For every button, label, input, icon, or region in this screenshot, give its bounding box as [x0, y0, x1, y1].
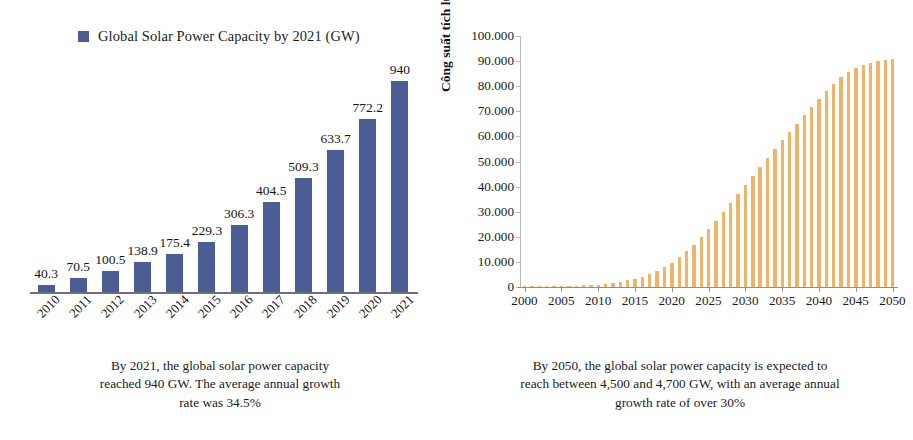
bar-value-label: 940	[390, 62, 410, 78]
right-bar-group	[801, 36, 808, 287]
left-bar-group: 306.3	[223, 58, 255, 294]
bar	[854, 68, 857, 287]
bar	[862, 65, 865, 287]
left-chart-bars: 40.370.5100.5138.9175.4229.3306.3404.550…	[30, 58, 416, 294]
left-bar-group: 40.3	[30, 58, 62, 294]
left-chart-caption: By 2021, the global solar power capacity…	[95, 357, 345, 412]
right-bar-group	[521, 36, 528, 287]
bar	[751, 176, 754, 287]
left-bar-group: 772.2	[352, 58, 384, 294]
x-label-cell: 2019	[320, 295, 352, 355]
x-axis-tick-label: 2016	[227, 292, 257, 322]
x-label-cell: 2021	[384, 295, 416, 355]
bar	[685, 251, 688, 287]
x-axis-tick-label: 2018	[291, 292, 321, 322]
bar	[102, 271, 119, 294]
right-bar-group	[720, 36, 727, 287]
left-bar-group: 509.3	[287, 58, 319, 294]
bar-value-label: 306.3	[224, 206, 254, 222]
x-axis-tick-label: 2020	[659, 293, 685, 309]
x-label-cell: 2018	[287, 295, 319, 355]
right-bar-group	[617, 36, 624, 287]
x-label-cell: 2014	[159, 295, 191, 355]
bar-value-label: 100.5	[95, 252, 125, 268]
left-bar-group: 940	[384, 58, 416, 294]
right-bar-group	[668, 36, 675, 287]
right-bar-group	[573, 36, 580, 287]
right-bar-group	[830, 36, 837, 287]
x-axis-tick-label: 2000	[511, 293, 537, 309]
bar	[391, 81, 408, 294]
y-axis-tick-label: 60.000	[478, 128, 514, 144]
y-axis-tick-label: 80.000	[478, 78, 514, 94]
right-bar-group	[867, 36, 874, 287]
right-bar-group	[845, 36, 852, 287]
right-bar-group	[690, 36, 697, 287]
y-axis-tick-label: 90.000	[478, 53, 514, 69]
y-axis-tick-label: 40.000	[478, 179, 514, 195]
left-bar-group: 633.7	[320, 58, 352, 294]
right-bar-group	[595, 36, 602, 287]
y-axis-tick-label: 100.000	[471, 28, 514, 44]
x-label-cell: 2012	[94, 295, 126, 355]
x-axis-tick-label: 2015	[622, 293, 648, 309]
right-bar-group	[543, 36, 550, 287]
x-axis-tick-label: 2040	[806, 293, 832, 309]
right-bar-group	[808, 36, 815, 287]
left-bar-group: 229.3	[191, 58, 223, 294]
right-bar-group	[587, 36, 594, 287]
x-axis-tick-label: 2020	[355, 292, 385, 322]
bar	[641, 277, 644, 287]
left-bar-group: 138.9	[127, 58, 159, 294]
x-axis-tick-label: 2011	[66, 292, 95, 321]
bar	[670, 263, 673, 287]
right-bar-group	[742, 36, 749, 287]
bar-value-label: 509.3	[288, 159, 318, 175]
bar	[231, 225, 248, 295]
right-chart-caption: By 2050, the global solar power capacity…	[520, 357, 840, 412]
bar	[714, 221, 717, 287]
x-label-cell: 2013	[127, 295, 159, 355]
x-axis-tick-label: 2015	[195, 292, 225, 322]
bar	[795, 124, 798, 287]
x-axis-tick-label: 2035	[769, 293, 795, 309]
y-axis-tick-label: 30.000	[478, 204, 514, 220]
bar	[803, 115, 806, 287]
right-bar-group	[609, 36, 616, 287]
x-tick-mark	[745, 288, 746, 292]
x-tick-mark	[635, 288, 636, 292]
x-tick-mark	[561, 288, 562, 292]
right-bar-group	[757, 36, 764, 287]
left-bar-group: 175.4	[159, 58, 191, 294]
right-bar-group	[683, 36, 690, 287]
left-chart-axis-line	[30, 292, 418, 294]
bar	[166, 254, 183, 294]
right-bar-group	[852, 36, 859, 287]
bar-value-label: 175.4	[160, 235, 190, 251]
right-chart-plot-area	[521, 36, 896, 287]
right-bar-group	[653, 36, 660, 287]
right-bar-group	[698, 36, 705, 287]
bar	[781, 140, 784, 287]
bar-value-label: 229.3	[192, 223, 222, 239]
left-chart-plot-area: 40.370.5100.5138.9175.4229.3306.3404.550…	[30, 58, 416, 294]
right-bar-group	[676, 36, 683, 287]
right-bar-group	[712, 36, 719, 287]
x-axis-tick-label: 2005	[548, 293, 574, 309]
x-label-cell: 2010	[30, 295, 62, 355]
bar	[198, 242, 215, 294]
x-axis-tick-label: 2017	[259, 292, 289, 322]
x-axis-tick-label: 2025	[695, 293, 721, 309]
bar	[678, 257, 681, 287]
bar	[736, 194, 739, 287]
x-tick-mark	[819, 288, 820, 292]
right-bar-group	[734, 36, 741, 287]
right-bar-group	[749, 36, 756, 287]
left-chart-legend: Global Solar Power Capacity by 2021 (GW)	[78, 27, 360, 45]
bar	[707, 229, 710, 287]
right-bar-group	[786, 36, 793, 287]
x-tick-mark	[598, 288, 599, 292]
bar	[817, 99, 820, 287]
bar	[884, 60, 887, 287]
right-bar-group	[602, 36, 609, 287]
